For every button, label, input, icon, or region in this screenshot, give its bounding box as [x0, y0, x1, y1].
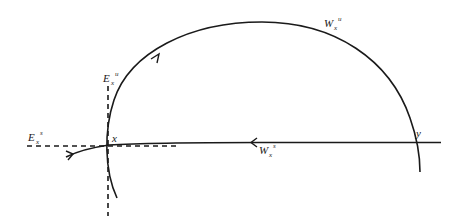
unstable-manifold-curve [107, 22, 420, 198]
label-unstable-eigenspace-sub: x [110, 79, 115, 87]
label-stable-eigenspace: E [27, 131, 35, 143]
label-stable-eigenspace-sup: s [40, 129, 43, 137]
label-stable-manifold-sub: x [268, 151, 273, 159]
label-stable-manifold-sup: s [273, 142, 276, 150]
label-point-x: x [111, 132, 117, 144]
label-stable-manifold: W [259, 144, 269, 156]
label-unstable-manifold: W [324, 17, 334, 29]
label-unstable-manifold-sub: x [333, 24, 338, 32]
arrow-unstable-icon [151, 54, 159, 63]
label-stable-eigenspace-sub: x [35, 138, 40, 146]
label-point-y: y [415, 127, 421, 139]
label-unstable-eigenspace-sup: u [115, 70, 119, 78]
label-unstable-manifold-sup: u [338, 15, 342, 23]
label-unstable-eigenspace: E [102, 72, 110, 84]
manifold-diagram: W x u W x s E x u E x s x y [0, 0, 462, 221]
